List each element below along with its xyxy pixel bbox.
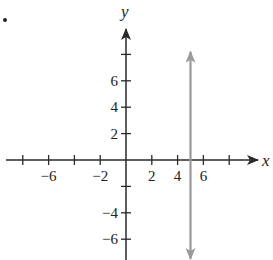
y-tick-label: 6 [111,73,119,89]
y-tick-label: 4 [111,99,119,115]
y-tick-label: −6 [102,231,118,247]
x-tick-label: 2 [148,168,156,184]
x-tick-label: −6 [41,168,57,184]
x-axis-label: x [261,151,270,170]
x-tick-label: −2 [92,168,108,184]
problem-number-dot [3,18,7,22]
y-tick-label: 2 [111,126,119,142]
y-axis-label: y [119,2,129,21]
coordinate-plane: −6−2246 642−4−6 x y [0,0,273,260]
x-tick-label: 4 [174,168,182,184]
y-tick-label: −4 [102,205,118,221]
x-tick-label: 6 [200,168,208,184]
